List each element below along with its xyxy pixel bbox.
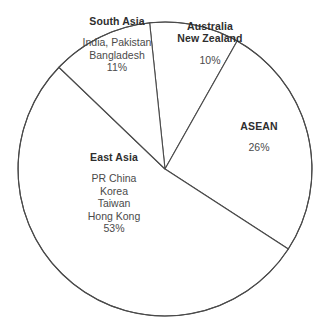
pie-chart-canvas [0, 0, 329, 333]
pie-slice-group [18, 22, 312, 316]
pie-chart: South Asia India, Pakistan Bangladesh 11… [0, 0, 329, 333]
